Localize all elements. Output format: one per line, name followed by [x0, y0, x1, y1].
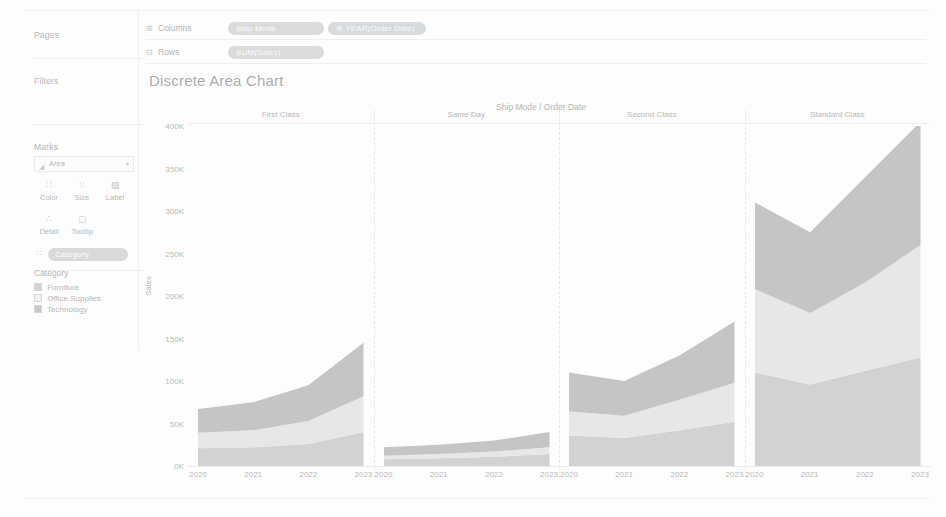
x-axis-tick-label: 2023 — [355, 470, 373, 479]
sidebar-divider — [138, 10, 139, 350]
top-frame-line — [24, 10, 930, 11]
columns-label: Columns — [158, 23, 192, 33]
rows-icon: ⊟ — [146, 48, 153, 57]
x-axis-tick-label: 2023 — [540, 470, 558, 479]
y-axis-tick: 300K — [165, 207, 184, 216]
x-axis-tick-label: 2022 — [299, 470, 317, 479]
x-axis-tick-label: 2020 — [560, 470, 578, 479]
y-axis-tick: 350K — [165, 164, 184, 173]
filters-shelf[interactable]: Filters — [34, 76, 138, 86]
marks-color-button[interactable]: ∷ Color — [34, 178, 64, 202]
y-axis-tick: 100K — [165, 377, 184, 386]
columns-shelf[interactable]: ⊞ Columns Ship Mode ⊕ YEAR(Order Date) — [146, 20, 926, 40]
marks-detail-label: Detail — [34, 227, 64, 236]
legend-item-label: Technology — [47, 305, 87, 314]
x-axis-tick-label: 2020 — [189, 470, 207, 479]
legend-item-office-supplies[interactable]: Office Supplies — [34, 293, 138, 304]
viz-container: Discrete Area Chart Ship Mode / Order Da… — [146, 68, 936, 498]
rows-shelf-divider — [146, 63, 926, 64]
label-icon: ▧ — [100, 178, 130, 192]
panel-header-standard-class[interactable]: Standard Class — [745, 110, 931, 123]
y-axis-tick: 0K — [174, 462, 184, 471]
area-panel-same-day[interactable] — [374, 126, 560, 466]
marks-color-label: Color — [34, 193, 64, 202]
pill-ship-mode[interactable]: Ship Mode — [228, 22, 324, 35]
color-swatch-icon: ∷ — [36, 249, 41, 258]
columns-icon: ⊞ — [146, 24, 153, 33]
viz-title: Discrete Area Chart — [149, 72, 284, 89]
legend-title: Category — [34, 268, 138, 278]
marks-category-pill-label: Category — [48, 248, 128, 261]
chevron-down-icon[interactable]: ▾ — [126, 157, 129, 171]
marks-size-label: Size — [67, 193, 97, 202]
rows-shelf[interactable]: ⊟ Rows SUM(Sales) — [146, 44, 926, 64]
y-axis-tick: 150K — [165, 334, 184, 343]
pages-divider — [34, 58, 144, 59]
x-axis[interactable]: 2020202120222023202020212022202320202021… — [188, 466, 930, 486]
size-icon: ⁙ — [67, 178, 97, 192]
legend-swatch-icon — [34, 283, 42, 291]
legend-item-label: Furniture — [47, 283, 79, 292]
y-axis-tick: 400K — [165, 122, 184, 131]
marks-label-button[interactable]: ▧ Label — [100, 178, 130, 202]
detail-icon: ∴ — [34, 212, 64, 226]
x-axis-tick-label: 2020 — [375, 470, 393, 479]
legend-item-furniture[interactable]: Furniture — [34, 282, 138, 293]
rows-label: Rows — [158, 47, 179, 57]
pages-label: Pages — [34, 30, 138, 40]
shelf-area: ⊞ Columns Ship Mode ⊕ YEAR(Order Date) ⊟… — [146, 20, 926, 64]
marks-category-pill[interactable]: ∷ Category — [36, 248, 130, 261]
area-mark-icon: ◢ — [39, 160, 44, 174]
legend-item-technology[interactable]: Technology — [34, 304, 138, 315]
x-axis-tick-label: 2023 — [911, 470, 929, 479]
filters-label: Filters — [34, 76, 138, 86]
panel-header-same-day[interactable]: Same Day — [374, 110, 560, 123]
area-panel-first-class[interactable] — [188, 126, 374, 466]
panel-header-second-class[interactable]: Second Class — [559, 110, 745, 123]
x-axis-tick-label: 2022 — [856, 470, 874, 479]
y-axis[interactable]: Sales 0K50K100K150K200K250K300K350K400K — [146, 126, 188, 466]
tableau-worksheet: Pages Filters Marks ◢ Area ▾ ∷ Color — [0, 0, 946, 517]
x-axis-tick-label: 2020 — [746, 470, 764, 479]
marks-label-label: Label — [100, 193, 130, 202]
column-field-label: Ship Mode / Order Date — [146, 96, 936, 108]
mark-type-value: Area — [49, 157, 65, 171]
tooltip-icon: ▢ — [67, 212, 97, 226]
marks-size-button[interactable]: ⁙ Size — [67, 178, 97, 202]
legend-swatch-icon — [34, 294, 42, 302]
x-axis-tick-label: 2021 — [430, 470, 448, 479]
marks-tooltip-button[interactable]: ▢ Tooltip — [67, 212, 97, 236]
x-axis-tick-label: 2023 — [726, 470, 744, 479]
x-axis-line — [188, 466, 930, 467]
x-axis-tick-label: 2021 — [615, 470, 633, 479]
marks-detail-button[interactable]: ∴ Detail — [34, 212, 64, 236]
y-axis-tick: 200K — [165, 292, 184, 301]
pill-year-order-date[interactable]: ⊕ YEAR(Order Date) — [328, 22, 426, 35]
columns-shelf-divider — [146, 39, 926, 40]
area-panel-standard-class[interactable] — [745, 126, 931, 466]
category-legend: Category Furniture Office Supplies Techn… — [34, 268, 138, 315]
x-axis-tick-label: 2022 — [485, 470, 503, 479]
bottom-frame-line — [24, 498, 930, 499]
y-axis-tick: 250K — [165, 249, 184, 258]
panel-header-first-class[interactable]: First Class — [188, 110, 374, 123]
color-icon: ∷ — [34, 178, 64, 192]
mark-type-dropdown[interactable]: ◢ Area ▾ — [34, 156, 134, 172]
marks-tooltip-label: Tooltip — [67, 227, 97, 236]
marks-label: Marks — [34, 142, 138, 152]
x-axis-tick-label: 2021 — [244, 470, 262, 479]
x-axis-tick-label: 2021 — [801, 470, 819, 479]
pages-shelf[interactable]: Pages — [34, 30, 138, 40]
y-axis-tick: 50K — [170, 419, 184, 428]
area-panel-second-class[interactable] — [559, 126, 745, 466]
plot-panels — [188, 126, 930, 466]
marks-card: Marks ◢ Area ▾ ∷ Color ⁙ Size — [34, 142, 138, 152]
x-axis-tick-label: 2022 — [670, 470, 688, 479]
y-axis-title: Sales — [144, 276, 153, 296]
legend-swatch-icon — [34, 305, 42, 313]
filters-divider — [34, 124, 144, 125]
legend-item-label: Office Supplies — [47, 294, 101, 303]
pill-sum-sales[interactable]: SUM(Sales) — [228, 46, 324, 59]
